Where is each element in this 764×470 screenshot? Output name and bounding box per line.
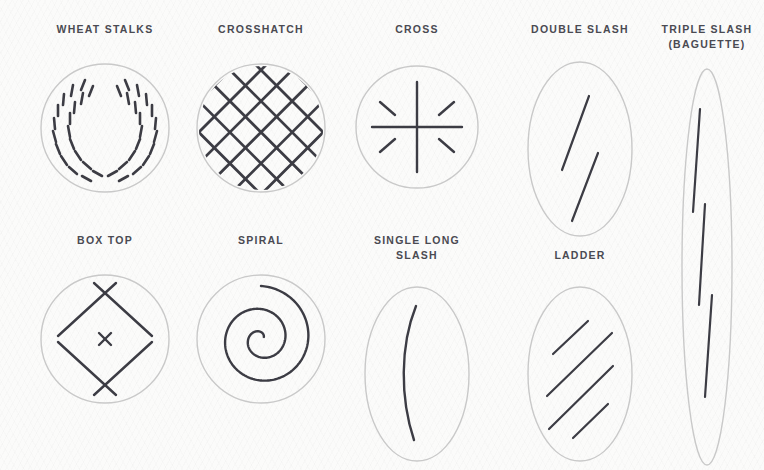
pattern-art-ladder: [527, 286, 633, 462]
pattern-label-triple-slash-baguette: TRIPLE SLASH (BAGUETTE): [650, 22, 764, 52]
pattern-label-cross: CROSS: [354, 22, 480, 37]
pattern-label-wheat-stalks: WHEAT STALKS: [40, 22, 170, 37]
loaf-outline-circle: [41, 64, 169, 192]
pattern-art-wheat-stalks: [40, 63, 170, 193]
pattern-label-ladder: LADDER: [518, 248, 642, 263]
pattern-label-single-long-slash: SINGLE LONG SLASH: [358, 233, 476, 263]
pattern-label-double-slash: DOUBLE SLASH: [518, 22, 642, 37]
loaf-outline-circle: [197, 64, 325, 192]
wheat-stalk-marks: [53, 80, 157, 181]
loaf-outline-circle: [197, 275, 325, 403]
pattern-label-crosshatch: CROSSHATCH: [196, 22, 326, 37]
pattern-art-box-top: [40, 274, 170, 404]
pattern-art-cross: [355, 65, 479, 189]
loaf-outline-oval: [528, 62, 632, 236]
triple-slash-marks: [693, 109, 712, 397]
box-top-marks: [58, 283, 152, 395]
pattern-art-single-long-slash: [364, 286, 470, 462]
pattern-art-triple-slash-baguette: [674, 67, 740, 467]
single-long-slash-mark: [404, 306, 416, 440]
pattern-art-crosshatch: [196, 63, 326, 193]
pattern-label-box-top: BOX TOP: [40, 233, 170, 248]
pattern-label-spiral: SPIRAL: [196, 233, 326, 248]
double-slash-marks: [562, 96, 598, 221]
loaf-outline-oval: [365, 287, 469, 461]
spiral-mark: [225, 286, 308, 381]
loaf-outline-oval: [528, 287, 632, 461]
loaf-outline-baguette: [682, 69, 732, 465]
bread-scoring-pattern-chart: WHEAT STALKS: [0, 0, 764, 470]
pattern-art-spiral: [196, 274, 326, 404]
pattern-art-double-slash: [527, 61, 633, 237]
ladder-marks: [547, 321, 613, 438]
cross-marks: [372, 82, 462, 172]
